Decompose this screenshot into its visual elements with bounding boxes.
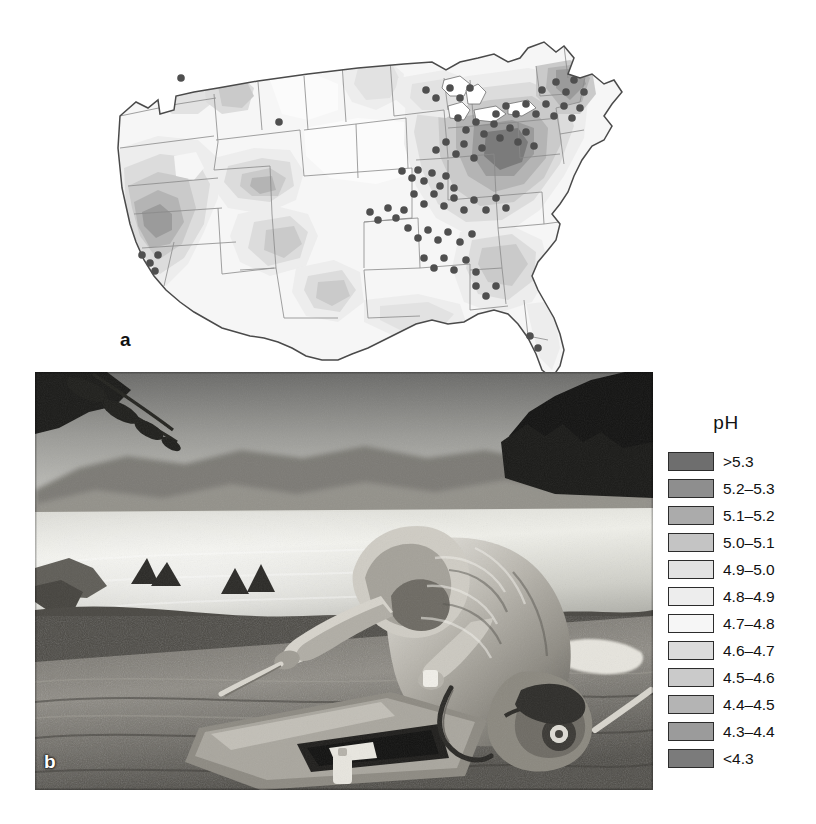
legend-swatch [668, 560, 714, 579]
legend-label: 4.8–4.9 [723, 589, 775, 605]
legend-row: 4.5–4.6 [668, 664, 808, 691]
legend-label: 4.6–4.7 [723, 643, 775, 659]
legend-swatch [668, 668, 714, 687]
panel-label-b: b [44, 752, 56, 771]
legend-swatch [668, 506, 714, 525]
legend-row: <4.3 [668, 745, 808, 772]
ph-legend: pH >5.35.2–5.35.1–5.25.0–5.14.9–5.04.8–4… [668, 412, 808, 772]
legend-label: 4.9–5.0 [723, 562, 775, 578]
legend-swatch [668, 722, 714, 741]
legend-swatch [668, 749, 714, 768]
legend-label: 5.1–5.2 [723, 508, 775, 524]
legend-row: 4.6–4.7 [668, 637, 808, 664]
legend-swatch [668, 479, 714, 498]
legend-label: 4.4–4.5 [723, 697, 775, 713]
legend-title: pH [674, 412, 778, 434]
legend-row: >5.3 [668, 448, 808, 475]
legend-label: 4.5–4.6 [723, 670, 775, 686]
legend-row: 5.1–5.2 [668, 502, 808, 529]
legend-label: 4.3–4.4 [723, 724, 775, 740]
legend-row: 4.8–4.9 [668, 583, 808, 610]
panel-label-a: a [120, 330, 131, 349]
legend-rows: >5.35.2–5.35.1–5.25.0–5.14.9–5.04.8–4.94… [668, 448, 808, 772]
legend-label: <4.3 [723, 751, 754, 767]
legend-row: 5.2–5.3 [668, 475, 808, 502]
legend-swatch [668, 614, 714, 633]
legend-swatch [668, 587, 714, 606]
legend-label: 4.7–4.8 [723, 616, 775, 632]
legend-swatch [668, 452, 714, 471]
legend-swatch [668, 533, 714, 552]
legend-swatch [668, 641, 714, 660]
legend-swatch [668, 695, 714, 714]
figure: a [0, 0, 816, 824]
legend-label: 5.0–5.1 [723, 535, 775, 551]
legend-row: 4.7–4.8 [668, 610, 808, 637]
legend-label: >5.3 [723, 454, 754, 470]
field-sampling-photograph [35, 372, 653, 790]
legend-row: 4.3–4.4 [668, 718, 808, 745]
legend-row: 4.4–4.5 [668, 691, 808, 718]
legend-row: 5.0–5.1 [668, 529, 808, 556]
legend-label: 5.2–5.3 [723, 481, 775, 497]
legend-row: 4.9–5.0 [668, 556, 808, 583]
